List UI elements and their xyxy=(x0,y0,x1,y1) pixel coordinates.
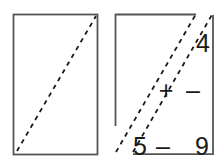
annotation-five: 5 xyxy=(133,132,147,160)
right-panel: 4 + – 5 – 9 xyxy=(115,13,213,160)
figure-root: 4 + – 5 – 9 xyxy=(0,0,222,163)
left-panel-border xyxy=(14,15,98,155)
annotation-minus-upper: – xyxy=(186,76,200,104)
annotation-four: 4 xyxy=(196,29,210,57)
annotation-plus: + xyxy=(159,76,174,104)
left-panel xyxy=(14,15,98,155)
figure-canvas: 4 + – 5 – 9 xyxy=(0,0,222,163)
annotation-minus-lower: – xyxy=(156,132,170,160)
annotation-nine: 9 xyxy=(195,132,209,160)
